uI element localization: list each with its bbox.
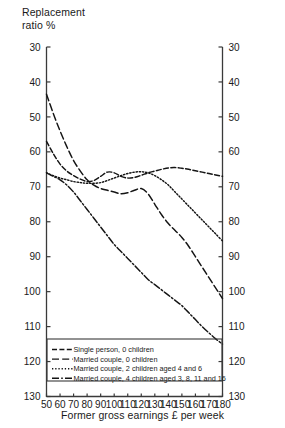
- right-tick-label: 50: [229, 112, 241, 123]
- right-tick-label: 40: [229, 77, 241, 88]
- right-tick-label: 60: [229, 146, 241, 157]
- data-series-group: [47, 94, 223, 344]
- right-tick-label: 130: [229, 391, 246, 402]
- replacement-ratio-chart: Replacement ratio % 13012011010090807060…: [0, 0, 285, 428]
- legend-label: Married couple, 0 children: [74, 355, 158, 364]
- series-line-dashed: [47, 141, 223, 181]
- x-axis-title: Former gross earnings £ per week: [0, 409, 285, 421]
- left-tick-label: 70: [29, 181, 41, 192]
- right-tick-label: 120: [229, 356, 246, 367]
- right-tick-label: 30: [229, 42, 241, 53]
- right-tick-label: 80: [229, 216, 241, 227]
- left-tick-label: 40: [29, 77, 41, 88]
- left-tick-label: 130: [24, 391, 41, 402]
- right-tick-label: 100: [229, 286, 246, 297]
- series-line-dash-dot: [47, 173, 223, 344]
- left-tick-label: 110: [25, 321, 41, 332]
- left-tick-label: 80: [29, 216, 41, 227]
- right-tick-label: 90: [229, 251, 241, 262]
- legend-entries: Single person, 0 childrenMarried couple,…: [52, 345, 226, 383]
- series-line-dotted: [47, 172, 223, 241]
- legend: Single person, 0 childrenMarried couple,…: [47, 339, 226, 383]
- left-tick-label: 30: [29, 42, 41, 53]
- series-line-long-dash: [47, 94, 223, 298]
- legend-label: Married couple, 2 children aged 4 and 6: [74, 364, 203, 373]
- left-tick-label: 100: [24, 286, 41, 297]
- legend-label: Single person, 0 children: [74, 345, 154, 354]
- left-tick-label: 120: [24, 356, 41, 367]
- left-tick-label: 50: [29, 112, 41, 123]
- left-tick-label: 60: [29, 146, 41, 157]
- legend-label: Married couple, 4 children aged 3, 8, 11…: [74, 374, 226, 383]
- left-tick-label: 90: [29, 251, 41, 262]
- chart-plot-area: 13012011010090807060504030 1301201101009…: [0, 0, 285, 428]
- right-tick-label: 110: [229, 321, 245, 332]
- right-tick-label: 70: [229, 181, 241, 192]
